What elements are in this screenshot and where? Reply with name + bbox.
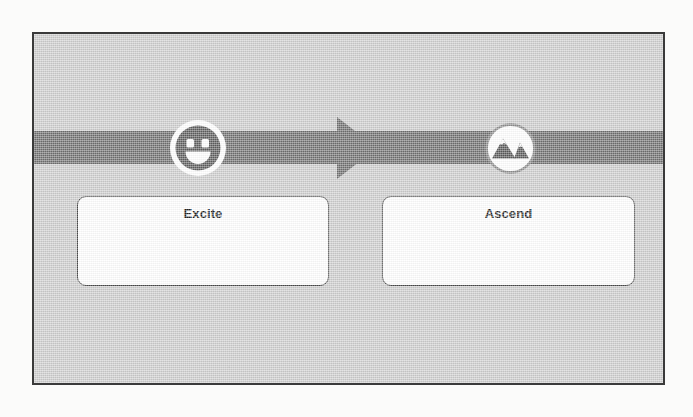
- stage-body-ascend[interactable]: [393, 227, 624, 279]
- smiley-face-glyph: [169, 119, 227, 177]
- stage-body-excite[interactable]: [88, 227, 318, 279]
- stage-box-ascend[interactable]: Ascend: [382, 196, 635, 286]
- mountains-icon[interactable]: [484, 122, 537, 175]
- smiley-face-icon[interactable]: [169, 119, 227, 177]
- mountains-glyph: [484, 122, 537, 175]
- stage-title-ascend: Ascend: [383, 206, 634, 221]
- slide-page: Excite Ascend: [0, 0, 693, 417]
- stage-box-excite[interactable]: Excite: [77, 196, 329, 286]
- stage-arrow-icon: [337, 117, 377, 179]
- stage-title-excite: Excite: [78, 206, 328, 221]
- slide-frame: Excite Ascend: [32, 32, 665, 385]
